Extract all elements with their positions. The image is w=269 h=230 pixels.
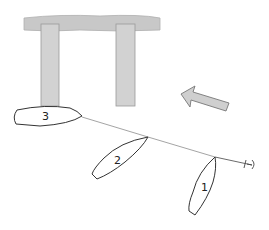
boat-3-label: 3 [42,110,49,123]
boat-3: 3 [14,106,82,126]
boat-1: 1 [189,157,216,215]
dock [24,15,160,106]
boat-2-label: 2 [114,154,121,167]
wind-arrow-icon [181,86,229,111]
mark-icon [244,160,254,169]
sailing-diagram: 3 2 1 [0,0,269,230]
boat-2: 2 [92,137,148,179]
boat-1-label: 1 [201,181,208,194]
